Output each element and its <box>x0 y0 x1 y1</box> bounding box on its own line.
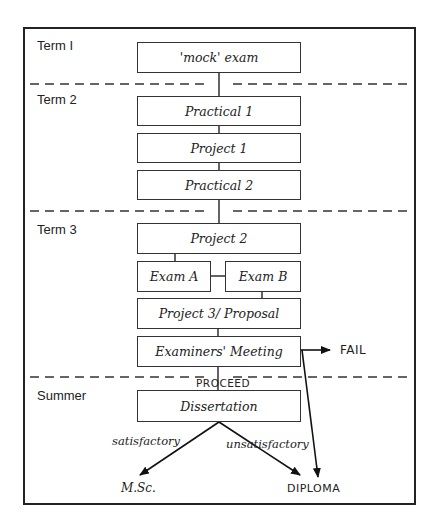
project-2-box: Project 2 <box>137 223 301 254</box>
practical-1-box: Practical 1 <box>137 96 301 126</box>
project-3-proposal-box: Project 3/ Proposal <box>137 298 301 329</box>
term-1-label: Term I <box>37 38 73 53</box>
examiners-meeting-box: Examiners' Meeting <box>137 336 301 367</box>
dissertation-box: Dissertation <box>137 390 301 422</box>
term-3-label: Term 3 <box>37 222 77 237</box>
mock-exam-box: 'mock' exam <box>137 42 301 73</box>
exam-a-box: Exam A <box>137 261 211 292</box>
unsatisfactory-label: unsatisfactory <box>226 437 309 451</box>
project-1-box: Project 1 <box>137 133 301 163</box>
fail-label: FAIL <box>340 343 366 357</box>
term-2-label: Term 2 <box>37 92 77 107</box>
satisfactory-label: satisfactory <box>112 434 180 448</box>
proceed-label: PROCEED <box>196 377 250 389</box>
connector-lines <box>0 0 436 532</box>
diploma-outcome-label: DIPLOMA <box>287 482 340 495</box>
practical-2-box: Practical 2 <box>137 170 301 200</box>
exam-b-box: Exam B <box>225 261 301 292</box>
summer-label: Summer <box>37 388 86 403</box>
msc-outcome-label: M.Sc. <box>121 481 156 495</box>
